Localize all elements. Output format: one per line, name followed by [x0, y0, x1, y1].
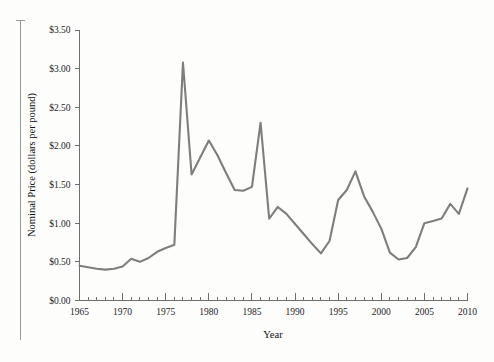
y-tick-label: $1.00 — [49, 219, 71, 229]
y-tick-label: $1.50 — [49, 180, 71, 190]
x-tick-label: 2005 — [415, 307, 434, 317]
y-tick-label: $2.50 — [49, 103, 71, 113]
line-chart: $0.00$0.50$1.00$1.50$2.00$2.50$3.00$3.50… — [0, 0, 494, 362]
x-axis-title: Year — [263, 329, 283, 340]
x-tick-label: 1990 — [286, 307, 305, 317]
x-tick-label: 1970 — [113, 307, 132, 317]
chart-figure: $0.00$0.50$1.00$1.50$2.00$2.50$3.00$3.50… — [0, 0, 494, 362]
y-tick-label: $3.00 — [49, 64, 71, 74]
x-tick-label: 1980 — [199, 307, 218, 317]
y-tick-label: $2.00 — [49, 141, 71, 151]
x-tick-label: 1975 — [156, 307, 175, 317]
y-tick-label: $0.50 — [49, 257, 71, 267]
x-tick-label: 1965 — [70, 307, 89, 317]
y-axis-title: Nominal Price (dollars per pound) — [26, 92, 38, 237]
x-tick-label: 1995 — [329, 307, 348, 317]
x-tick-label: 2010 — [458, 307, 477, 317]
x-tick-label: 2000 — [372, 307, 391, 317]
y-tick-label: $3.50 — [49, 25, 71, 35]
y-tick-label: $0.00 — [49, 296, 71, 306]
x-tick-label: 1985 — [242, 307, 261, 317]
